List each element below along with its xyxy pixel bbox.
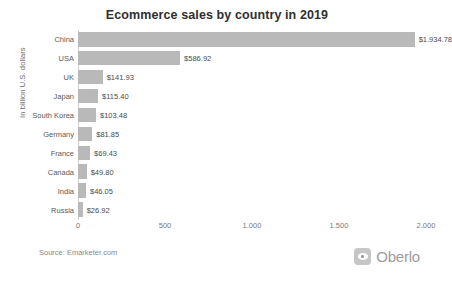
bar <box>78 51 180 65</box>
page-title: Ecommerce sales by country in 2019 <box>0 8 434 22</box>
bar-row: Russia$26.92 <box>78 200 426 219</box>
bar <box>78 127 92 141</box>
bar-value-label: $115.40 <box>98 92 129 101</box>
bar-category-label: Canada <box>48 167 74 176</box>
bar <box>78 70 103 84</box>
x-axis-tick-label: 2.000 <box>417 221 436 230</box>
bar-row: Canada$49.80 <box>78 162 426 181</box>
bar-row: UK$141.93 <box>78 68 426 87</box>
bar-value-label: $586.92 <box>180 54 211 63</box>
bar <box>78 164 87 178</box>
bar <box>78 32 415 46</box>
bar-category-label: USA <box>59 54 74 63</box>
bar <box>78 89 98 103</box>
x-axis-tick-label: 1.500 <box>330 221 349 230</box>
bar-value-label: $1.934.78 <box>415 35 452 44</box>
x-axis-tick-label: 500 <box>159 221 172 230</box>
bar-value-label: $49.80 <box>87 167 114 176</box>
bar <box>78 183 86 197</box>
bar <box>78 146 90 160</box>
y-axis-title: In billion U.S. dollars <box>18 47 27 118</box>
oberlo-wordmark: Oberlo <box>376 248 420 265</box>
source-note: Source: Emarketer.com <box>39 248 117 257</box>
bar-row: France$69.43 <box>78 143 426 162</box>
bar-row: Japan$115.40 <box>78 87 426 106</box>
bar-category-label: South Korea <box>32 111 74 120</box>
bar-category-label: Japan <box>54 92 74 101</box>
x-axis-tick-label: 0 <box>76 221 80 230</box>
bar-category-label: France <box>51 148 74 157</box>
oberlo-mark-icon <box>354 248 371 265</box>
bar-value-label: $81.85 <box>92 129 119 138</box>
bar-row: India$46.05 <box>78 181 426 200</box>
bar-row: South Korea$103.48 <box>78 106 426 125</box>
bar-category-label: Russia <box>51 205 74 214</box>
bar-value-label: $69.43 <box>90 148 117 157</box>
bar-row: China$1.934.78 <box>78 30 426 49</box>
bar <box>78 108 96 122</box>
bar-value-label: $141.93 <box>103 73 134 82</box>
bar-value-label: $26.92 <box>83 205 110 214</box>
bar-category-label: India <box>58 186 74 195</box>
bar-row: USA$586.92 <box>78 49 426 68</box>
bar-value-label: $46.05 <box>86 186 113 195</box>
bar-category-label: China <box>54 35 74 44</box>
x-axis: 05001.0001.5002.000 <box>78 221 426 235</box>
oberlo-logo: Oberlo <box>354 248 420 265</box>
bar-value-label: $103.48 <box>96 111 127 120</box>
bar-row: Germany$81.85 <box>78 125 426 144</box>
bar-category-label: UK <box>64 73 74 82</box>
bar-category-label: Germany <box>43 129 74 138</box>
x-axis-tick-label: 1.000 <box>243 221 262 230</box>
chart-plot-area: China$1.934.78USA$586.92UK$141.93Japan$1… <box>78 30 426 219</box>
